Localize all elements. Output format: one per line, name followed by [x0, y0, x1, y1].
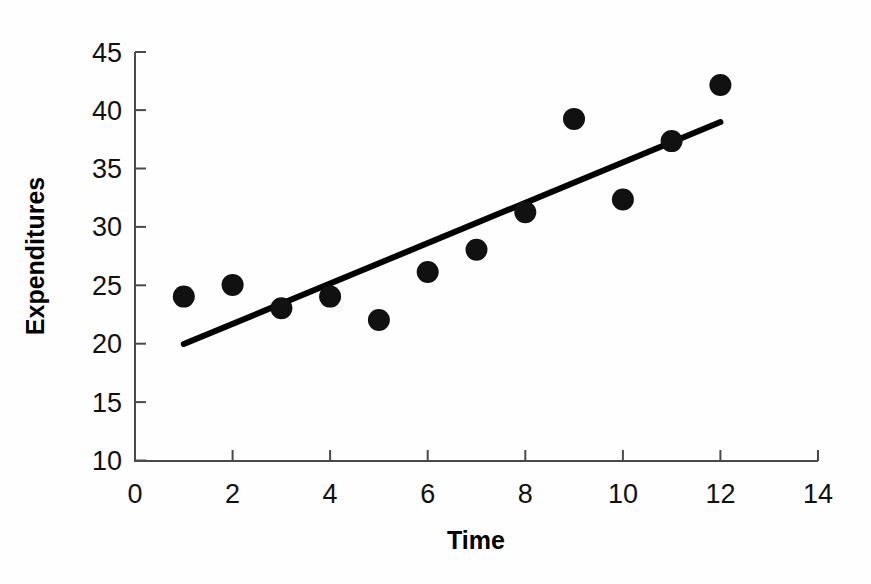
x-tick-label-12: 12	[705, 479, 735, 509]
y-tick-label-30: 30	[92, 212, 122, 242]
x-tick-label-14: 14	[803, 479, 833, 509]
y-tick-label-25: 25	[92, 271, 122, 301]
data-point-2	[222, 274, 244, 296]
data-point-7	[466, 239, 488, 261]
data-point-12	[709, 74, 731, 96]
data-point-8	[514, 201, 536, 223]
data-point-3	[270, 297, 292, 319]
data-point-1	[173, 286, 195, 308]
y-axis-title: Expenditures	[21, 177, 49, 335]
y-tick-label-35: 35	[92, 154, 122, 184]
data-point-5	[368, 309, 390, 331]
data-point-9	[563, 108, 585, 130]
chart-figure: 10 15 20 25 30 35 40 45 0 2 4 6 8	[0, 0, 871, 584]
x-tick-label-10: 10	[608, 479, 638, 509]
x-tick-label-8: 8	[518, 479, 533, 509]
data-point-10	[612, 189, 634, 211]
x-tick-label-2: 2	[225, 479, 240, 509]
data-point-4	[319, 286, 341, 308]
scatter-plot-svg: 10 15 20 25 30 35 40 45 0 2 4 6 8	[0, 0, 871, 584]
y-tick-label-15: 15	[92, 388, 122, 418]
y-tick-label-40: 40	[92, 96, 122, 126]
y-tick-label-10: 10	[92, 446, 122, 476]
data-point-11	[661, 130, 683, 152]
data-point-6	[417, 261, 439, 283]
x-tick-label-0: 0	[127, 479, 142, 509]
x-tick-label-6: 6	[420, 479, 435, 509]
y-tick-label-20: 20	[92, 329, 122, 359]
y-tick-label-45: 45	[92, 38, 122, 68]
x-tick-label-4: 4	[323, 479, 338, 509]
x-axis-title: Time	[447, 526, 505, 554]
